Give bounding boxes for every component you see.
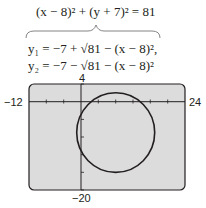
xmin-label: −12 [4, 96, 23, 108]
graph-svg [0, 0, 206, 208]
brace [26, 25, 160, 38]
ymin-label: −20 [72, 192, 91, 204]
calculator-screen [29, 84, 185, 190]
y1-equation: y₁ = −7 + √81 − (x − 8)², [28, 41, 157, 57]
ymax-label: 4 [79, 72, 85, 84]
xmax-label: 24 [189, 96, 201, 108]
y2-equation: y₂ = −7 − √81 − (x − 8)² [28, 58, 154, 74]
